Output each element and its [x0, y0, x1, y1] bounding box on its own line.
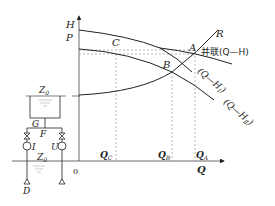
label-pump1: (Q—HⅠ): [195, 66, 228, 96]
curve-pump2: [79, 49, 214, 100]
tick-qb: QB: [158, 150, 171, 161]
y-label-h: H: [65, 19, 75, 30]
point-c: C: [112, 37, 120, 48]
x-label-q: Q: [197, 164, 206, 175]
origin-label: 0: [73, 167, 78, 176]
label-r: R: [215, 28, 224, 39]
tick-qa: QA: [196, 150, 209, 161]
point-b: B: [162, 59, 170, 70]
node-f-label: F: [39, 129, 47, 139]
pump-schematic: [23, 96, 80, 184]
point-a: A: [188, 42, 196, 53]
pump-i-label: I: [31, 142, 36, 152]
y-label-p: P: [65, 32, 73, 43]
tick-qc: QC: [100, 150, 113, 161]
tank-level-label: Z0: [38, 85, 49, 96]
label-parallel: 并联(Q—H): [201, 46, 249, 57]
suction-level-label: Z0: [36, 152, 47, 163]
pump-u-label: U: [51, 142, 59, 152]
label-pump2: (Q—HⅡ): [221, 97, 256, 128]
node-g-label: G: [32, 119, 39, 129]
curve-pump1: [79, 30, 192, 72]
node-d-label: D: [22, 186, 30, 196]
pump-characteristic-diagram: H P 0 Q C B A R 并联(Q—H) (Q—HⅠ) (Q—HⅡ) QC…: [0, 0, 275, 206]
